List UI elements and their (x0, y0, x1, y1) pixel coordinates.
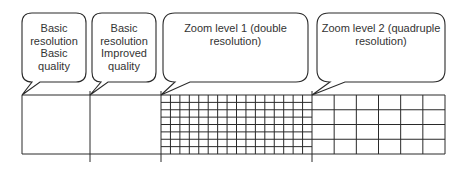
bubble-2-text: Basic resolution Improved quality (92, 22, 156, 72)
bubble-4-text: Zoom level 2 (quadruple resolution) (317, 22, 445, 47)
zoom-level-1-grid (161, 95, 312, 154)
bubble-1-text: Basic resolution Basic quality (22, 22, 86, 72)
resolution-grid (22, 91, 445, 162)
bubble-3-text: Zoom level 1 (double resolution) (163, 22, 308, 47)
zoom-level-2-grid (312, 95, 445, 154)
